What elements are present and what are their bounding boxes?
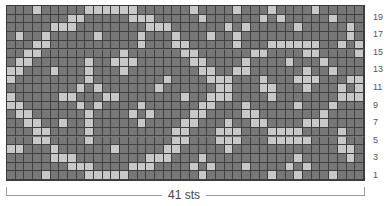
chart-cell <box>155 6 164 15</box>
chart-cell <box>103 163 112 172</box>
chart-cell <box>33 93 42 102</box>
chart-cell <box>225 23 234 32</box>
chart-cell <box>7 93 16 102</box>
chart-cell <box>207 110 216 119</box>
chart-cell <box>164 50 173 59</box>
chart-cell <box>120 154 129 163</box>
chart-cell <box>24 119 33 128</box>
chart-cell <box>129 41 138 50</box>
chart-cell <box>260 137 269 146</box>
chart-cell <box>51 58 60 67</box>
chart-cell <box>277 6 286 15</box>
chart-cell <box>268 15 277 24</box>
chart-cell <box>355 76 364 85</box>
chart-cell <box>181 128 190 137</box>
chart-cell <box>42 6 51 15</box>
chart-cell <box>146 58 155 67</box>
row-label: 19 <box>373 12 383 22</box>
chart-cell <box>24 67 33 76</box>
chart-cell <box>103 32 112 41</box>
chart-cell <box>225 41 234 50</box>
chart-cell <box>251 41 260 50</box>
chart-cell <box>199 6 208 15</box>
chart-cell <box>42 50 51 59</box>
chart-cell <box>190 163 199 172</box>
chart-cell <box>251 76 260 85</box>
chart-cell <box>111 67 120 76</box>
chart-cell <box>146 76 155 85</box>
row-label: 3 <box>373 152 378 162</box>
chart-cell <box>329 145 338 154</box>
chart-cell <box>260 154 269 163</box>
chart-cell <box>251 67 260 76</box>
chart-cell <box>312 110 321 119</box>
chart-cell <box>199 137 208 146</box>
chart-cell <box>355 50 364 59</box>
chart-cell <box>146 119 155 128</box>
chart-cell <box>120 41 129 50</box>
chart-cell <box>51 23 60 32</box>
chart-cell <box>329 76 338 85</box>
chart-cell <box>216 145 225 154</box>
chart-cell <box>155 67 164 76</box>
chart-cell <box>294 93 303 102</box>
chart-cell <box>294 6 303 15</box>
chart-cell <box>111 128 120 137</box>
chart-cell <box>94 110 103 119</box>
chart-cell <box>68 110 77 119</box>
chart-cell <box>207 102 216 111</box>
chart-cell <box>16 163 25 172</box>
chart-cell <box>329 6 338 15</box>
chart-cell <box>225 32 234 41</box>
chart-cell <box>77 119 86 128</box>
chart-cell <box>199 128 208 137</box>
chart-cell <box>190 50 199 59</box>
chart-cell <box>77 67 86 76</box>
chart-cell <box>7 76 16 85</box>
chart-cell <box>68 67 77 76</box>
chart-cell <box>181 84 190 93</box>
chart-cell <box>303 84 312 93</box>
chart-cell <box>312 128 321 137</box>
chart-cell <box>277 76 286 85</box>
chart-cell <box>155 23 164 32</box>
chart-cell <box>16 93 25 102</box>
chart-cell <box>146 137 155 146</box>
chart-cell <box>338 102 347 111</box>
chart-cell <box>164 119 173 128</box>
chart-cell <box>164 110 173 119</box>
chart-cell <box>260 50 269 59</box>
chart-cell <box>242 76 251 85</box>
chart-cell <box>68 128 77 137</box>
chart-cell <box>68 23 77 32</box>
chart-cell <box>16 23 25 32</box>
chart-cell <box>207 119 216 128</box>
chart-cell <box>294 145 303 154</box>
chart-cell <box>120 6 129 15</box>
chart-cell <box>172 32 181 41</box>
chart-cell <box>199 145 208 154</box>
chart-cell <box>16 154 25 163</box>
chart-cell <box>172 76 181 85</box>
chart-cell <box>242 154 251 163</box>
chart-cell <box>111 58 120 67</box>
chart-cell <box>129 145 138 154</box>
chart-cell <box>24 102 33 111</box>
chart-cell <box>294 76 303 85</box>
chart-cell <box>233 67 242 76</box>
chart-cell <box>181 119 190 128</box>
chart-cell <box>16 6 25 15</box>
chart-cell <box>312 58 321 67</box>
chart-cell <box>268 41 277 50</box>
chart-cell <box>42 76 51 85</box>
chart-cell <box>303 67 312 76</box>
chart-cell <box>77 163 86 172</box>
chart-cell <box>120 110 129 119</box>
chart-cell <box>155 50 164 59</box>
chart-cell <box>199 171 208 180</box>
chart-cell <box>16 171 25 180</box>
chart-cell <box>85 93 94 102</box>
chart-cell <box>155 119 164 128</box>
chart-cell <box>59 50 68 59</box>
chart-cell <box>320 6 329 15</box>
